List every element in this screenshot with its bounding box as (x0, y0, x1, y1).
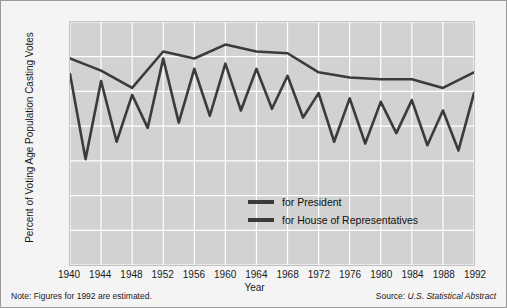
x-tick-label: 1988 (433, 269, 455, 280)
legend-item-house: for House of Representatives (248, 214, 418, 226)
x-tick-label: 1992 (464, 269, 486, 280)
x-tick-label: 1968 (276, 269, 298, 280)
footnote-source: Source: U.S. Statistical Abstract (376, 291, 496, 301)
x-tick-label: 1944 (89, 269, 111, 280)
x-tick-label: 1956 (183, 269, 205, 280)
legend-swatch-president (248, 200, 274, 204)
legend-item-president: for President (248, 196, 418, 208)
legend-label-president: for President (282, 196, 342, 208)
x-tick-label: 1960 (214, 269, 236, 280)
x-tick-label: 1948 (120, 269, 142, 280)
y-axis-label: Percent of Voting Age Population Casting… (24, 13, 35, 263)
x-tick-label: 1952 (152, 269, 174, 280)
chart-legend: for President for House of Representativ… (248, 196, 418, 232)
chart-figure: Percent of Voting Age Population Casting… (0, 0, 507, 308)
x-tick-label: 1964 (245, 269, 267, 280)
source-prefix: Source: (376, 291, 408, 301)
series-line-president (70, 45, 474, 88)
footnote-note: Note: Figures for 1992 are estimated. (11, 291, 152, 301)
x-tick-label: 1972 (308, 269, 330, 280)
x-tick-label: 1984 (401, 269, 423, 280)
legend-swatch-house (248, 218, 274, 222)
x-tick-label: 1980 (370, 269, 392, 280)
source-value: U.S. Statistical Abstract (408, 291, 497, 301)
x-tick-label: 1940 (58, 269, 80, 280)
x-tick-label: 1976 (339, 269, 361, 280)
legend-label-house: for House of Representatives (282, 214, 418, 226)
series-line-house (70, 58, 474, 159)
